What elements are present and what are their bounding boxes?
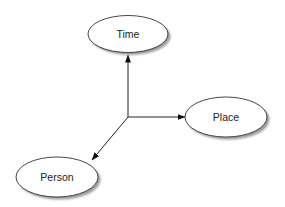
node-place[interactable]: Place — [185, 97, 270, 140]
node-person[interactable]: Person — [16, 157, 101, 200]
node-time[interactable]: Time — [88, 16, 171, 56]
diagram-canvas: Time Place Person — [0, 0, 285, 207]
edges — [92, 55, 185, 160]
edge-hub-to-person — [92, 117, 128, 160]
node-time-label: Time — [117, 28, 140, 40]
node-person-label: Person — [40, 171, 73, 183]
node-place-label: Place — [213, 111, 239, 123]
